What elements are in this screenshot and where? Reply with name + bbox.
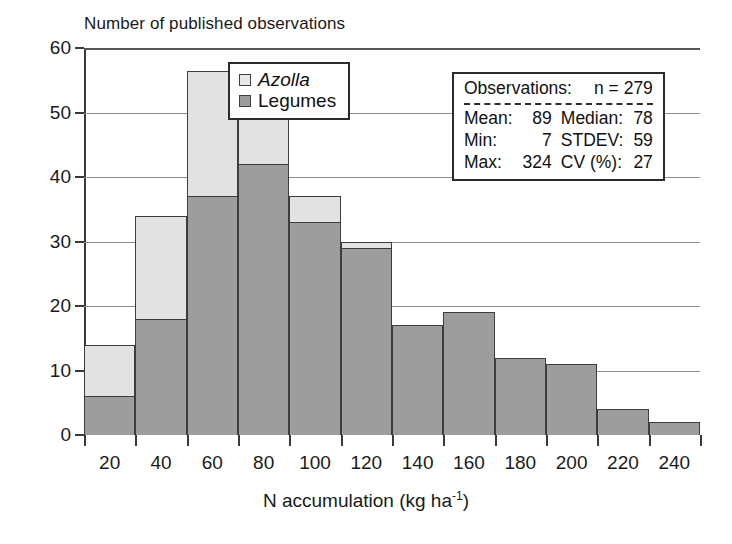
y-axis-tick-label: 60 — [50, 37, 71, 59]
statistic-value: 89 — [522, 108, 552, 129]
legend-label: Legumes — [258, 90, 336, 111]
bar-segment-legumes — [238, 164, 289, 435]
statistic-key: Max: — [464, 152, 513, 173]
statistic-key: STDEV: — [561, 130, 624, 151]
x-axis-title-text: N accumulation (kg ha — [263, 490, 452, 511]
chart-figure: Number of published observations 0102030… — [0, 0, 732, 544]
x-axis-tick — [392, 435, 394, 446]
x-axis-tick-label: 100 — [289, 452, 340, 474]
y-axis-tick — [75, 112, 84, 114]
x-axis-tick — [135, 435, 137, 446]
legend-item: Azolla — [239, 69, 336, 90]
x-axis-ticks — [84, 435, 700, 447]
bar-segment-legumes — [341, 248, 392, 435]
bar-segment-legumes — [546, 364, 597, 435]
statistic-value: 27 — [633, 152, 653, 173]
x-axis-tick — [289, 435, 291, 446]
legend: AzollaLegumes — [228, 62, 350, 120]
x-axis-tick — [341, 435, 343, 446]
bar-segment-azolla — [84, 345, 135, 397]
bar-segment-legumes — [135, 319, 186, 435]
chart-title: Number of published observations — [84, 14, 345, 34]
observations-count: n = 279 — [594, 78, 653, 99]
x-axis-title-close: ) — [463, 490, 469, 511]
y-axis-tick — [75, 176, 84, 178]
x-axis-tick-label: 200 — [546, 452, 597, 474]
bar-segment-legumes — [84, 396, 135, 435]
statistics-box: Observations: n = 279 Mean:89Median:78Mi… — [452, 72, 665, 181]
x-axis-tick-label: 60 — [187, 452, 238, 474]
statistic-key: Mean: — [464, 108, 513, 129]
x-axis-tick — [546, 435, 548, 446]
statistic-key: Median: — [561, 108, 624, 129]
x-axis-tick — [649, 435, 651, 446]
statistic-value: 324 — [522, 152, 552, 173]
x-axis-tick — [700, 435, 702, 446]
x-axis-labels: 20406080100120140160180200220240 — [84, 452, 700, 474]
statistics-divider — [464, 103, 653, 105]
y-axis-tick — [75, 305, 84, 307]
legend-swatch — [239, 74, 251, 86]
x-axis-tick — [597, 435, 599, 446]
x-axis-tick-label: 180 — [495, 452, 546, 474]
y-axis-tick-label: 0 — [60, 424, 71, 446]
bar-segment-legumes — [649, 422, 700, 435]
x-axis-tick-label: 20 — [84, 452, 135, 474]
x-axis-tick — [495, 435, 497, 446]
x-axis-tick-label: 160 — [443, 452, 494, 474]
y-axis-tick — [75, 47, 84, 49]
x-axis-tick-label: 120 — [341, 452, 392, 474]
y-axis-tick-label: 30 — [50, 231, 71, 253]
statistics-grid: Mean:89Median:78Min:7STDEV:59Max:324CV (… — [464, 108, 653, 173]
observations-label: Observations: — [464, 78, 572, 99]
bar-column — [84, 48, 135, 435]
x-axis-tick-label: 40 — [135, 452, 186, 474]
bar-column — [135, 48, 186, 435]
bar-segment-azolla — [238, 113, 289, 165]
bar-segment-azolla — [289, 196, 340, 222]
statistics-header: Observations: n = 279 — [464, 78, 653, 99]
bar-column — [392, 48, 443, 435]
bar-segment-legumes — [392, 325, 443, 435]
statistic-key: CV (%): — [561, 152, 624, 173]
bar-segment-legumes — [597, 409, 648, 435]
statistic-value: 78 — [633, 108, 653, 129]
bar-segment-legumes — [443, 312, 494, 435]
y-axis-tick — [75, 370, 84, 372]
bar-segment-legumes — [495, 358, 546, 435]
legend-swatch — [239, 95, 251, 107]
bar-segment-azolla — [135, 216, 186, 319]
y-axis-tick-label: 40 — [50, 166, 71, 188]
x-axis-tick — [443, 435, 445, 446]
x-axis-tick — [187, 435, 189, 446]
y-axis-tick-label: 10 — [50, 360, 71, 382]
y-axis-tick — [75, 434, 84, 436]
statistic-value: 59 — [633, 130, 653, 151]
x-axis-title-exponent: -1 — [452, 489, 463, 503]
x-axis-tick-label: 80 — [238, 452, 289, 474]
legend-item: Legumes — [239, 90, 336, 111]
statistic-value: 7 — [522, 130, 552, 151]
x-axis-tick-label: 140 — [392, 452, 443, 474]
x-axis-title: N accumulation (kg ha-1) — [0, 489, 732, 512]
x-axis-tick-label: 240 — [649, 452, 700, 474]
y-axis-tick-label: 50 — [50, 102, 71, 124]
statistic-key: Min: — [464, 130, 513, 151]
y-axis-tick-label: 20 — [50, 295, 71, 317]
legend-label: Azolla — [258, 69, 310, 90]
bar-segment-legumes — [289, 222, 340, 435]
x-axis-tick-label: 220 — [597, 452, 648, 474]
bar-segment-legumes — [187, 196, 238, 435]
y-axis-tick — [75, 241, 84, 243]
x-axis-tick — [238, 435, 240, 446]
x-axis-tick — [84, 435, 86, 446]
